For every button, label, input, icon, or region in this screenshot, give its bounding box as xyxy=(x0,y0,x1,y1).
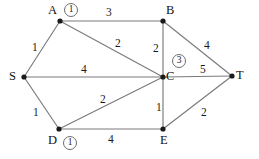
edge-weight-c-e: 1 xyxy=(156,102,162,114)
graph-canvas xyxy=(0,0,259,159)
graph-node-dot-t xyxy=(229,73,234,78)
edge-weight-b-t: 4 xyxy=(204,40,210,52)
graph-node-dot-d xyxy=(56,126,61,131)
edge-weight-c-d: 2 xyxy=(100,94,106,106)
node-annotation-a: 1 xyxy=(64,3,78,17)
graph-node-label-e: E xyxy=(160,134,168,147)
graph-node-label-t: T xyxy=(236,69,244,82)
graph-node-dot-e xyxy=(160,126,165,131)
edge-weight-s-d: 1 xyxy=(33,107,39,119)
graph-edge-s-a xyxy=(24,21,60,77)
graph-node-label-c: C xyxy=(166,70,174,83)
graph-node-label-b: B xyxy=(166,4,174,17)
graph-edge-c-d xyxy=(59,77,163,129)
graph-node-dot-s xyxy=(21,74,26,79)
graph-node-label-s: S xyxy=(9,70,16,83)
graph-edge-b-t xyxy=(163,21,232,76)
edge-weight-c-t: 5 xyxy=(200,64,206,76)
edge-weight-s-a: 1 xyxy=(32,42,38,54)
graph-node-label-a: A xyxy=(48,4,57,17)
node-annotation-d: 1 xyxy=(63,136,77,150)
edge-weight-a-c: 2 xyxy=(115,38,121,50)
edge-weight-a-b: 3 xyxy=(106,7,112,19)
graph-diagram: SABCDET 141322452142 131 xyxy=(0,0,259,159)
edge-weight-s-c: 4 xyxy=(81,64,87,76)
edge-weight-e-t: 2 xyxy=(201,107,207,119)
graph-node-dot-b xyxy=(160,18,165,23)
graph-edge-s-d xyxy=(24,77,59,129)
edge-weight-d-e: 4 xyxy=(108,134,114,146)
edge-weight-b-c: 2 xyxy=(153,43,159,55)
graph-node-label-d: D xyxy=(48,134,57,147)
graph-node-dot-c xyxy=(160,74,165,79)
graph-node-dot-a xyxy=(57,18,62,23)
node-annotation-c: 3 xyxy=(172,54,186,68)
graph-edge-e-t xyxy=(163,76,232,129)
graph-edge-a-c xyxy=(60,21,163,77)
